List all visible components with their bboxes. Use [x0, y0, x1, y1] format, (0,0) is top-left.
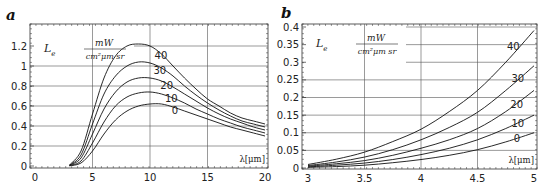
curve-label-0: 0	[514, 133, 520, 144]
curve-0	[70, 104, 266, 166]
y-tick-label: 0.4	[11, 121, 27, 132]
chart-panel-b: 00.050.10.150.20.250.30.350.433.544.5540…	[277, 4, 537, 184]
curve-label-40: 40	[155, 50, 168, 61]
curve-label-20: 20	[510, 99, 523, 110]
x-axis-label: λ[μm]	[239, 154, 265, 164]
y-tick-label: 0.3	[283, 57, 299, 68]
panel-label: b	[281, 4, 292, 22]
y-tick-label: 0.2	[11, 141, 27, 152]
y-tick-label: 0.6	[11, 101, 27, 112]
y-tick-label: 1	[21, 61, 27, 72]
x-tick-label: 10	[144, 172, 157, 183]
x-tick-label: 4.5	[470, 173, 486, 184]
radiance-symbol: Le	[315, 37, 327, 53]
unit-denominator: cm²μm sr	[358, 47, 398, 56]
x-tick-label: 3	[305, 173, 311, 184]
x-axis-label: λ[μm]	[508, 155, 534, 165]
y-tick-label: 0.35	[277, 39, 299, 50]
x-tick-label: 5	[89, 172, 95, 183]
curve-label-30: 30	[511, 73, 524, 84]
curve-label-0: 0	[172, 105, 178, 116]
y-tick-label: 0.1	[283, 127, 299, 138]
y-tick-label: 0.05	[277, 145, 299, 156]
curve-label-10: 10	[165, 93, 178, 104]
x-tick-label: 0	[32, 172, 38, 183]
curve-label-40: 40	[507, 41, 520, 52]
x-tick-label: 5	[531, 173, 537, 184]
y-tick-label: 0.4	[283, 22, 299, 33]
y-tick-label: 0.25	[277, 74, 299, 85]
x-tick-label: 15	[201, 172, 214, 183]
spectral-radiance-figure: 00.20.40.60.811.205101520403020100aLemWc…	[0, 0, 550, 189]
y-tick-label: 0.15	[277, 110, 299, 121]
curve-30	[70, 62, 266, 165]
curve-40	[70, 44, 266, 165]
y-tick-label: 0.8	[11, 81, 27, 92]
x-tick-label: 20	[259, 172, 272, 183]
y-tick-label: 0	[293, 163, 299, 174]
plot-frame	[302, 24, 537, 169]
curve-label-20: 20	[160, 80, 173, 91]
unit-numerator: mW	[95, 38, 114, 48]
x-tick-label: 4	[418, 173, 424, 184]
y-tick-label: 0.2	[283, 92, 299, 103]
radiance-symbol: Le	[43, 42, 55, 58]
curve-label-10: 10	[511, 118, 524, 129]
panel-label: a	[6, 6, 16, 24]
unit-numerator: mW	[367, 33, 386, 43]
y-tick-label: 1.2	[11, 41, 27, 52]
unit-denominator: cm²μm sr	[86, 52, 126, 61]
chart-panel-a: 00.20.40.60.811.205101520403020100aLemWc…	[6, 6, 271, 183]
y-tick-label: 0	[21, 161, 27, 172]
curve-label-30: 30	[153, 65, 166, 76]
x-tick-label: 3.5	[357, 173, 373, 184]
